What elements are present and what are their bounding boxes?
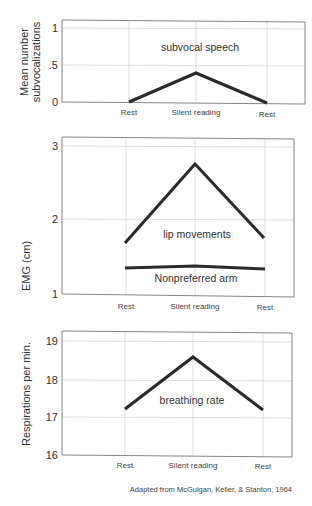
y-tick: 2 xyxy=(52,213,58,225)
plot-frame xyxy=(62,20,305,104)
x-tick-label: Rest xyxy=(257,303,274,312)
x-tick-label: Rest xyxy=(121,108,138,117)
y-tick: 1 xyxy=(52,22,58,34)
figure-canvas: 1 .5 0 Rest Silent reading Rest Mean num… xyxy=(0,0,312,506)
y-tick: 19 xyxy=(46,335,58,347)
x-tick-label: Silent reading xyxy=(172,108,221,117)
series-annotation: breathing rate xyxy=(160,394,225,406)
x-tick-label: Rest xyxy=(118,302,135,311)
y-tick: 16 xyxy=(46,449,58,461)
x-tick-label: Rest xyxy=(117,461,134,470)
x-tick-label: Rest xyxy=(255,462,272,471)
y-axis-label: EMG (cm) xyxy=(20,241,32,291)
series-annotation: subvocal speech xyxy=(161,41,239,53)
y-axis-label: Respirations per min. xyxy=(20,342,32,446)
y-tick: .5 xyxy=(49,59,58,71)
y-axis-label: Mean number subvocalizations xyxy=(18,21,42,102)
x-tick-label: Silent reading xyxy=(171,302,220,311)
x-tick-label: Rest xyxy=(259,110,276,119)
y-tick: 0 xyxy=(52,96,58,108)
chart-panel-emg: 3 2 1 Rest Silent reading Rest EMG (cm) … xyxy=(20,137,294,312)
source-citation: Adapted from McGuigan, Keller, & Stanton… xyxy=(130,485,292,494)
series-annotation: lip movements xyxy=(163,228,231,240)
chart-panel-subvocal: 1 .5 0 Rest Silent reading Rest Mean num… xyxy=(18,20,305,119)
series-line-subvocal-speech xyxy=(129,73,267,103)
series-annotation: Nonpreferred arm xyxy=(155,272,238,284)
svg-text:Mean number: Mean number xyxy=(18,28,30,96)
y-tick: 1 xyxy=(52,288,58,300)
svg-text:subvocalizations: subvocalizations xyxy=(30,21,42,102)
chart-panel-respiration: 19 18 17 16 Rest Silent reading Rest Res… xyxy=(20,331,292,471)
y-tick: 18 xyxy=(46,374,58,386)
x-tick-label: Silent reading xyxy=(169,461,218,470)
y-tick: 17 xyxy=(46,411,58,423)
y-tick: 3 xyxy=(52,140,58,152)
